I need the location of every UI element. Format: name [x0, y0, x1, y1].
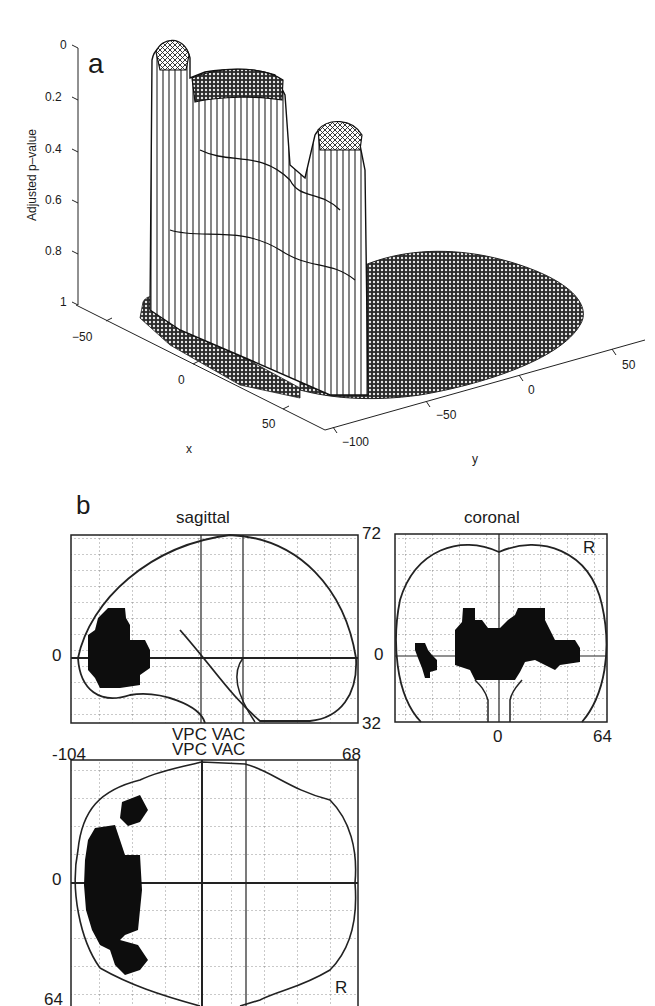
z-tick-0.8: 0.8: [45, 244, 62, 258]
sagittal-x-max: 68: [342, 745, 361, 765]
x-tick-minus50: −50: [72, 330, 92, 344]
transverse-side-marker: R: [335, 978, 347, 998]
panel-b: b sagittal: [0, 490, 655, 1006]
sagittal-y-bottom: 32: [362, 714, 381, 734]
y-tick-minus50: −50: [436, 408, 456, 422]
z-tick-0.2: 0.2: [45, 90, 62, 104]
x-tick-0: 0: [178, 373, 185, 387]
sagittal-y-top: 72: [362, 524, 381, 544]
transverse-y-zero: 0: [52, 870, 61, 890]
transverse-top-label: VPC VAC: [172, 740, 245, 760]
sagittal-view: [71, 535, 358, 723]
panel-a: a Adjusted p–value 0 0.2 0.4 0.6 0.8 1 −…: [0, 0, 655, 490]
x-axis-title: x: [186, 442, 192, 456]
panel-a-label: a: [88, 48, 104, 80]
coronal-y-zero: 0: [374, 645, 383, 665]
sagittal-x-min: -104: [52, 745, 86, 765]
y-tick-50: 50: [622, 358, 635, 372]
coronal-x-zero: 0: [493, 727, 502, 747]
transverse-y-bottom: 64: [44, 990, 63, 1006]
coronal-title: coronal: [464, 508, 520, 528]
coronal-x-max: 64: [593, 727, 612, 747]
coronal-view: [395, 534, 607, 722]
z-tick-0.6: 0.6: [45, 193, 62, 207]
x-tick-50: 50: [262, 417, 275, 431]
y-axis-title: y: [472, 452, 478, 466]
z-axis-title: Adjusted p–value: [25, 105, 39, 245]
z-tick-0: 0: [60, 38, 67, 52]
sagittal-y-zero: 0: [52, 646, 61, 666]
coronal-side-marker: R: [583, 538, 595, 558]
transverse-view: [71, 760, 358, 1006]
y-tick-minus100: −100: [342, 435, 369, 449]
glass-brain-views: [0, 490, 655, 1006]
y-tick-0: 0: [528, 383, 535, 397]
z-tick-0.4: 0.4: [45, 142, 62, 156]
z-tick-1: 1: [60, 295, 67, 309]
